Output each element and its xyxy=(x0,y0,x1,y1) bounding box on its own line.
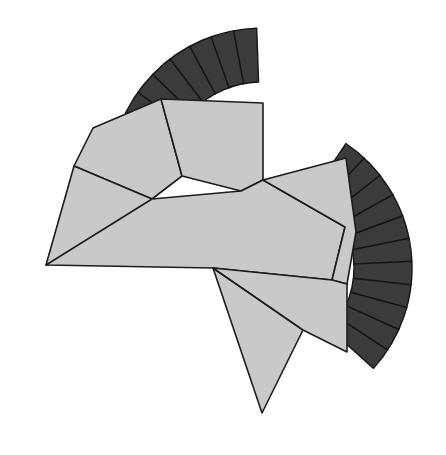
figure-canvas: Segmented pinwheel figure Abstract geome… xyxy=(0,0,446,455)
geometric-figure-svg: Segmented pinwheel figure Abstract geome… xyxy=(0,0,446,455)
